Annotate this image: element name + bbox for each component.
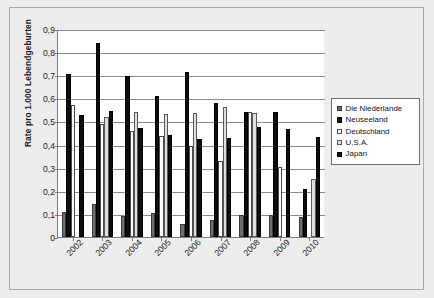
y-tick-label: 0,4 xyxy=(43,141,55,151)
bar-2010-1 xyxy=(303,189,307,237)
bar-group-2006: 2006 xyxy=(176,30,206,237)
x-tick-label-2002: 2002 xyxy=(64,237,85,258)
x-tick-label-2007: 2007 xyxy=(212,237,233,258)
bar-2009-4 xyxy=(286,129,290,237)
bar-group-2007: 2007 xyxy=(206,30,236,237)
legend-item-0[interactable]: Die Niederlande xyxy=(337,103,415,114)
bar-group-2009: 2009 xyxy=(265,30,295,237)
bar-group-2002: 2002 xyxy=(58,30,88,237)
bar-2004-4 xyxy=(138,128,142,237)
bar-group-2010: 2010 xyxy=(295,30,325,237)
legend-swatch-icon xyxy=(337,140,342,145)
chart-figure: Rate pro 1.000 Lebendgeburten 0,90,80,70… xyxy=(0,0,434,298)
plot-area: 0,90,80,70,60,50,40,30,20,10 20022003200… xyxy=(57,30,324,238)
y-tick-label: 0,1 xyxy=(43,210,55,220)
bar-group-2004: 2004 xyxy=(117,30,147,237)
bar-2005-4 xyxy=(168,135,172,237)
bar-2002-4 xyxy=(79,115,83,237)
legend-label: Japan xyxy=(346,150,368,158)
legend-swatch-icon xyxy=(337,129,342,134)
y-tick-label: 0,8 xyxy=(43,48,55,58)
legend-item-1[interactable]: Neuseeland xyxy=(337,114,415,125)
bar-group-2008: 2008 xyxy=(235,30,265,237)
bar-2002-2 xyxy=(71,105,75,237)
y-tick-label: 0,6 xyxy=(43,94,55,104)
legend-label: Deutschland xyxy=(346,128,390,136)
y-tick-label: 0,3 xyxy=(43,164,55,174)
bar-2006-4 xyxy=(197,139,201,237)
y-tick-label: 0 xyxy=(50,233,55,243)
legend-swatch-icon xyxy=(337,117,342,122)
x-tick-label-2005: 2005 xyxy=(153,237,174,258)
y-tick-label: 0,2 xyxy=(43,187,55,197)
legend-label: U.S.A. xyxy=(346,139,369,147)
legend-swatch-icon xyxy=(337,152,342,157)
y-tick-label: 0,9 xyxy=(43,25,55,35)
legend-swatch-icon xyxy=(337,106,342,111)
bar-2003-4 xyxy=(109,111,113,237)
bar-2008-4 xyxy=(257,127,261,237)
bar-group-2003: 2003 xyxy=(88,30,118,237)
legend-item-3[interactable]: U.S.A. xyxy=(337,137,415,148)
legend-item-2[interactable]: Deutschland xyxy=(337,126,415,137)
legend-item-4[interactable]: Japan xyxy=(337,149,415,160)
x-tick-label-2009: 2009 xyxy=(271,237,292,258)
legend-label: Neuseeland xyxy=(346,116,388,124)
x-tick-label-2008: 2008 xyxy=(241,237,262,258)
x-tick-label-2004: 2004 xyxy=(123,237,144,258)
y-tick-label: 0,5 xyxy=(43,117,55,127)
chart-legend: Die NiederlandeNeuseelandDeutschlandU.S.… xyxy=(331,98,420,165)
x-tick-label-2010: 2010 xyxy=(301,237,322,258)
bar-groups: 200220032004200520062007200820092010 xyxy=(58,30,324,237)
x-tick-label-2006: 2006 xyxy=(182,237,203,258)
bar-group-2005: 2005 xyxy=(147,30,177,237)
y-tick-label: 0,7 xyxy=(43,71,55,81)
bar-2009-2 xyxy=(278,167,282,237)
legend-label: Die Niederlande xyxy=(346,105,403,113)
y-axis-title: Rate pro 1.000 Lebendgeburten xyxy=(23,3,33,163)
bar-2010-4 xyxy=(316,137,320,237)
x-tick-label-2003: 2003 xyxy=(94,237,115,258)
bar-2007-4 xyxy=(227,138,231,237)
